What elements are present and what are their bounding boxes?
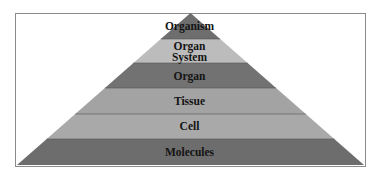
level-label-cell: Cell [0,120,379,132]
level-label-organism: Organism [0,20,379,32]
level-label-molecules: Molecules [0,146,379,158]
level-label-tissue: Tissue [0,95,379,107]
level-label-organ: Organ [0,70,379,82]
level-label-organ-system-line2: System [0,51,379,63]
